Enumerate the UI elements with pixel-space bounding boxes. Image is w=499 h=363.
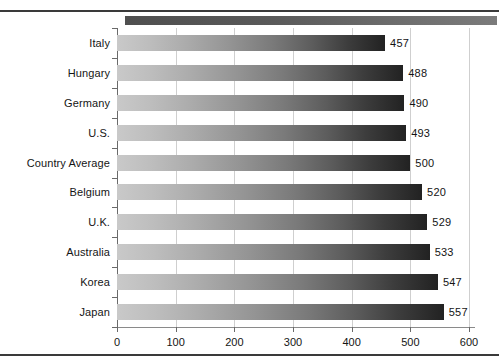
bottom-divider <box>0 354 499 356</box>
bar-row: 557 <box>117 304 475 320</box>
y-axis-tick <box>112 88 117 89</box>
bar-value-label: 488 <box>408 67 427 79</box>
bar-row: 547 <box>117 274 475 290</box>
bar <box>117 274 438 290</box>
top-divider <box>0 10 499 12</box>
category-label-japan: Japan <box>80 306 110 318</box>
x-axis-tick-0 <box>117 327 118 332</box>
bar <box>117 304 444 320</box>
bar <box>117 65 403 81</box>
bar <box>117 244 430 260</box>
x-axis-line <box>117 327 475 328</box>
y-axis-tick <box>112 178 117 179</box>
x-axis-tick-600 <box>469 327 470 332</box>
x-axis-label-600: 600 <box>460 336 478 348</box>
bar <box>117 155 410 171</box>
category-label-italy: Italy <box>89 37 110 49</box>
category-label-hungary: Hungary <box>68 67 110 79</box>
bar-value-label: 493 <box>411 127 430 139</box>
x-axis-tick-100 <box>176 327 177 332</box>
category-label-belgium: Belgium <box>70 186 110 198</box>
y-axis-tick <box>112 28 117 29</box>
header-accent-bar <box>125 16 497 25</box>
bar <box>117 214 427 230</box>
category-label-germany: Germany <box>64 97 110 109</box>
category-label-country-average: Country Average <box>27 157 110 169</box>
y-axis-tick <box>112 237 117 238</box>
bar <box>117 35 385 51</box>
x-axis-label-0: 0 <box>114 336 120 348</box>
y-axis-tick <box>112 58 117 59</box>
y-axis-tick <box>112 297 117 298</box>
bar <box>117 125 406 141</box>
bar-value-label: 457 <box>390 37 409 49</box>
x-axis-tick-200 <box>234 327 235 332</box>
category-axis-labels: ItalyHungaryGermanyU.S.Country AverageBe… <box>0 28 110 331</box>
bar-row: 457 <box>117 35 475 51</box>
bar-chart-figure: ItalyHungaryGermanyU.S.Country AverageBe… <box>0 0 499 363</box>
y-axis-tick <box>112 148 117 149</box>
x-axis-tick-400 <box>352 327 353 332</box>
x-axis-tick-500 <box>410 327 411 332</box>
bar-row: 493 <box>117 125 475 141</box>
bar <box>117 184 422 200</box>
category-label-australia: Australia <box>66 246 110 258</box>
category-label-korea: Korea <box>80 276 110 288</box>
bar-value-label: 490 <box>409 97 428 109</box>
bar-row: 533 <box>117 244 475 260</box>
bar-value-label: 529 <box>432 216 451 228</box>
plot-area: 4574884904935005205295335475570100200300… <box>117 28 475 331</box>
x-axis-label-100: 100 <box>166 336 184 348</box>
category-label-u-k: U.K. <box>88 216 110 228</box>
y-axis-tick <box>112 207 117 208</box>
bar-row: 520 <box>117 184 475 200</box>
x-axis-label-300: 300 <box>284 336 302 348</box>
x-axis-label-400: 400 <box>342 336 360 348</box>
bar-value-label: 520 <box>427 186 446 198</box>
bar-row: 529 <box>117 214 475 230</box>
bar-row: 488 <box>117 65 475 81</box>
y-axis-tick <box>112 267 117 268</box>
bar-value-label: 500 <box>415 157 434 169</box>
bar <box>117 95 404 111</box>
bar-row: 500 <box>117 155 475 171</box>
x-axis-tick-300 <box>293 327 294 332</box>
bar-row: 490 <box>117 95 475 111</box>
y-axis-tick <box>112 118 117 119</box>
bar-value-label: 533 <box>435 246 454 258</box>
category-label-u-s: U.S. <box>88 127 110 139</box>
x-axis-label-500: 500 <box>401 336 419 348</box>
x-axis-label-200: 200 <box>225 336 243 348</box>
bar-value-label: 547 <box>443 276 462 288</box>
bar-value-label: 557 <box>449 306 468 318</box>
